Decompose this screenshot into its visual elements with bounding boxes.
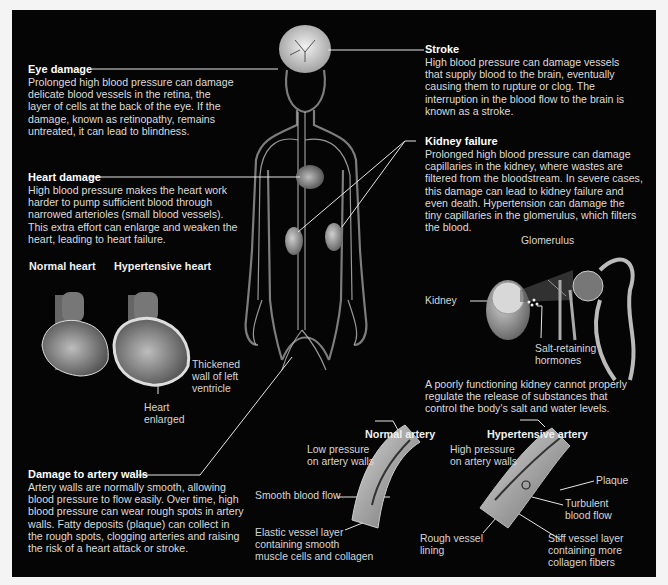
hypertensive-artery-title: Hypertensive artery: [487, 428, 588, 441]
artery-damage-line: blood pressure to flow easily. Over time…: [28, 493, 273, 505]
eye-damage-line: untreated, it can lead to blindness.: [28, 125, 268, 137]
kidney-failure-line: filtered from the bloodstream. In severe…: [425, 172, 655, 184]
plaque-label: Plaque: [596, 475, 628, 487]
artery-damage-line: the rough spots, clogging arteries and r…: [28, 530, 273, 542]
smooth-flow-label: Smooth blood flow: [255, 490, 340, 502]
artery-damage-line: blood pressure can wear rough spots in a…: [28, 505, 273, 517]
kidney-failure-line: the blood.: [425, 221, 655, 233]
brain-icon: [279, 25, 331, 73]
eye-damage-block: Eye damage Prolonged high blood pressure…: [28, 63, 268, 137]
turbulent-flow-label: Turbulent blood flow: [565, 498, 612, 522]
kidney-failure-title: Kidney failure: [425, 135, 655, 148]
hypertensive-artery-icon: [480, 428, 570, 528]
kidney-note-block: A poorly functioning kidney cannot prope…: [425, 378, 655, 415]
kidney-failure-line: capillaries in the kidney, where wastes …: [425, 160, 655, 172]
kidney-right-icon: [325, 223, 343, 251]
eye-damage-line: Prolonged high blood pressure can damage: [28, 76, 268, 88]
stroke-line: interruption in the blood flow to the br…: [425, 93, 655, 105]
heart-damage-line: harder to pump sufficient blood through: [28, 196, 268, 208]
artery-damage-title: Damage to artery walls: [28, 468, 273, 481]
kidney-failure-line: this damage can lead to kidney failure a…: [425, 185, 655, 197]
glomerulus-label: Glomerulus: [521, 235, 574, 247]
hypertensive-heart-icon: [114, 292, 189, 385]
artery-damage-line: Artery walls are normally smooth, allowi…: [28, 481, 273, 493]
stroke-line: High blood pressure can damage vessels: [425, 56, 655, 68]
stroke-line: that supply blood to the brain, eventual…: [425, 68, 655, 80]
heart-damage-line: High blood pressure makes the heart work: [28, 184, 268, 196]
low-pressure-label: Low pressure on artery walls: [307, 444, 374, 468]
stroke-title: Stroke: [425, 43, 655, 56]
heart-enlarged-label: Heart enlarged: [144, 402, 184, 426]
eye-damage-line: layer of cells at the back of the eye. I…: [28, 100, 268, 112]
eye-damage-line: delicate blood vessels in the retina, th…: [28, 88, 268, 100]
stiff-layer-label: Stiff vessel layer containing more colla…: [548, 533, 623, 569]
stroke-line: known as a stroke.: [425, 105, 655, 117]
artery-damage-block: Damage to artery walls Artery walls are …: [28, 468, 273, 554]
thickened-wall-label: Thickened wall of left ventricle: [192, 359, 240, 395]
heart-damage-line: This extra effort can enlarge and weaken…: [28, 221, 268, 233]
normal-heart-label: Normal heart: [29, 260, 96, 273]
kidney-label: Kidney: [425, 295, 457, 307]
hypertensive-heart-label: Hypertensive heart: [114, 260, 211, 273]
normal-heart-icon: [42, 292, 108, 376]
artery-damage-line: the risk of a heart attack or stroke.: [28, 542, 273, 554]
eye-damage-title: Eye damage: [28, 63, 268, 76]
hormones-label: Salt-retaining hormones: [535, 343, 596, 367]
stroke-block: Stroke High blood pressure can damage ve…: [425, 43, 655, 117]
artery-damage-line: walls. Fatty deposits (plaque) can colle…: [28, 518, 273, 530]
heart-damage-line: narrowed arterioles (small blood vessels…: [28, 208, 268, 220]
stroke-line: causing them to rupture or clog. The: [425, 80, 655, 92]
high-pressure-label: High pressure on artery walls: [450, 444, 517, 468]
heart-damage-title: Heart damage: [28, 171, 268, 184]
kidney-failure-line: even death. Hypertension can damage the: [425, 197, 655, 209]
elastic-layer-label: Elastic vessel layer containing smooth m…: [255, 527, 373, 563]
kidney-failure-line: Prolonged high blood pressure can damage: [425, 148, 655, 160]
heart-damage-block: Heart damage High blood pressure makes t…: [28, 171, 268, 245]
heart-damage-line: heart, leading to heart failure.: [28, 233, 268, 245]
kidney-failure-line: tiny capillaries in the glomerulus, whic…: [425, 209, 655, 221]
normal-artery-title: Normal artery: [365, 428, 435, 441]
eye-damage-line: damage, known as retinopathy, remains: [28, 113, 268, 125]
kidney-failure-block: Kidney failure Prolonged high blood pres…: [425, 135, 655, 233]
heart-icon: [296, 165, 324, 189]
kidney-left-icon: [285, 227, 303, 255]
rough-lining-label: Rough vessel lining: [420, 533, 483, 557]
